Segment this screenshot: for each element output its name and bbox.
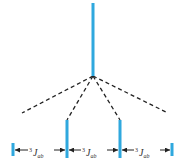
child-peak-2 [66,120,69,158]
child-peak-1 [12,143,15,156]
dashed-split-lines [22,76,168,120]
child-peak-3 [119,120,122,158]
child-peak-4 [171,143,174,156]
splitting-diagram [0,0,177,165]
parent-peak [92,3,95,76]
coupling-label-3: 3Jab [135,145,149,161]
coupling-label-1: 3Jab [29,145,43,161]
coupling-label-2: 3Jab [82,145,96,161]
